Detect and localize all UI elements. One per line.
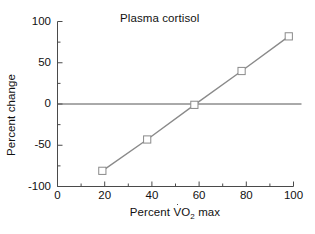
x-tick-label: 80 [226, 190, 266, 202]
data-point-marker [238, 67, 245, 74]
data-point-marker [99, 167, 106, 174]
chart-title: Plasma cortisol [120, 12, 199, 24]
x-tick-label: 100 [274, 190, 314, 202]
x-tick-label: 20 [85, 190, 125, 202]
v-dot-glyph: V [173, 206, 181, 218]
y-tick-label: 100 [5, 16, 51, 28]
x-axis-label-suffix: max [195, 206, 220, 218]
x-axis-label-subscript: 2 [190, 212, 195, 221]
x-tick-labels: 020406080100 [0, 190, 315, 206]
y-tick-label: -50 [5, 139, 51, 151]
data-point-marker [191, 101, 198, 108]
y-tick-label: 0 [5, 98, 51, 110]
x-axis-label-o: O [181, 206, 190, 218]
data-point-marker [285, 33, 292, 40]
x-axis-label-prefix: Percent [130, 206, 174, 218]
x-tick-label: 40 [132, 190, 172, 202]
x-tick-label: 60 [179, 190, 219, 202]
x-tick-label: 0 [38, 190, 78, 202]
data-point-marker [144, 136, 151, 143]
x-axis-label: Percent VO2 max [57, 206, 293, 218]
chart-figure: Plasma cortisol Percent change Percent V… [0, 0, 315, 234]
y-tick-label: 50 [5, 57, 51, 69]
